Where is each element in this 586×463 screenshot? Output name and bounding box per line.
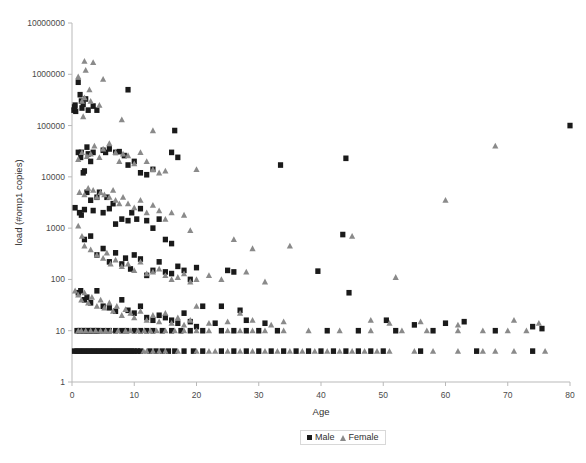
data-point-female (120, 194, 126, 200)
data-point-male (346, 290, 351, 296)
data-point-female (156, 207, 162, 213)
legend-entry-male: Male (307, 433, 335, 442)
y-axis-title: load (#omp1 copies) (13, 159, 24, 245)
data-point-female (162, 310, 168, 316)
data-point-male (219, 303, 224, 309)
data-point-female (125, 261, 131, 267)
y-tick-label: 1000 (46, 223, 65, 233)
data-point-female (262, 279, 268, 285)
data-point-female (542, 348, 548, 354)
data-point-female (100, 76, 106, 82)
data-point-female (96, 154, 102, 160)
data-point-female (112, 257, 118, 263)
data-point-male (144, 172, 149, 178)
data-point-male (88, 233, 93, 239)
data-point-male (418, 348, 423, 354)
data-point-male (318, 348, 323, 354)
data-point-female (114, 303, 120, 309)
data-point-male (200, 348, 205, 354)
data-point-female (181, 212, 187, 218)
data-point-male (181, 348, 186, 354)
legend-label-female: Female (349, 433, 379, 442)
data-point-female (237, 348, 243, 354)
data-point-male (325, 328, 330, 334)
data-point-male (125, 87, 130, 93)
data-point-female (175, 314, 181, 320)
data-point-female (76, 189, 82, 195)
data-point-male (262, 320, 267, 326)
data-point-male (430, 328, 435, 334)
data-point-female (79, 233, 85, 239)
data-point-male (443, 320, 448, 326)
data-point-male (113, 250, 118, 256)
data-point-male (134, 216, 139, 222)
data-point-male (244, 348, 249, 354)
data-point-female (100, 255, 106, 261)
data-point-female (455, 348, 461, 354)
data-point-female (281, 328, 287, 334)
data-point-male (340, 232, 345, 238)
data-point-male (356, 348, 361, 354)
data-point-male (269, 348, 274, 354)
data-point-male (129, 210, 134, 216)
data-point-female (262, 348, 268, 354)
data-point-female (249, 245, 255, 251)
data-point-male (119, 297, 124, 303)
data-point-female (90, 59, 96, 65)
data-point-female (349, 348, 355, 354)
data-point-female (237, 328, 243, 334)
data-point-female (144, 210, 150, 216)
data-point-female (430, 348, 436, 354)
scatter-chart: 1101001000100001000001000000100000000102… (0, 0, 586, 463)
data-point-male (393, 328, 398, 334)
data-point-male (213, 320, 218, 326)
data-point-female (193, 276, 199, 282)
x-tick-label: 20 (192, 390, 202, 400)
data-point-female (411, 348, 417, 354)
data-point-female (299, 348, 305, 354)
data-point-female (455, 322, 461, 328)
data-point-female (175, 274, 181, 280)
data-point-female (89, 294, 95, 300)
data-point-female (523, 328, 529, 334)
data-point-male (381, 348, 386, 354)
data-point-male (175, 155, 180, 161)
data-point-female (119, 312, 125, 318)
data-point-female (110, 187, 116, 193)
data-point-female (287, 348, 293, 354)
data-point-male (539, 326, 544, 332)
series-female (72, 58, 548, 354)
data-point-female (393, 274, 399, 280)
data-point-male (157, 216, 162, 222)
y-tick-label: 1000000 (32, 69, 65, 79)
data-point-male (125, 218, 130, 224)
y-tick-label: 10000000 (27, 18, 65, 28)
data-point-female (106, 300, 112, 306)
data-point-male (138, 170, 143, 176)
data-point-female (206, 320, 212, 326)
data-point-female (150, 127, 156, 133)
data-point-male (91, 208, 96, 214)
data-point-female (96, 102, 102, 108)
data-point-male (294, 348, 299, 354)
data-point-male (343, 156, 348, 162)
data-point-female (88, 98, 94, 104)
data-point-female (324, 348, 330, 354)
data-point-female (249, 348, 255, 354)
data-point-male (530, 348, 535, 354)
y-tick-label: 10000 (41, 172, 65, 182)
data-point-female (106, 140, 112, 146)
data-point-female (94, 303, 100, 309)
data-point-male (275, 328, 280, 334)
data-point-male (94, 107, 99, 113)
data-point-male (88, 197, 93, 203)
data-point-female (386, 348, 392, 354)
data-point-female (249, 328, 255, 334)
data-point-female (116, 158, 122, 164)
data-point-male (113, 221, 118, 227)
data-point-male (86, 107, 91, 113)
data-point-female (218, 276, 224, 282)
data-point-female (505, 328, 511, 334)
y-tick-label: 100 (51, 274, 65, 284)
data-point-female (225, 348, 231, 354)
